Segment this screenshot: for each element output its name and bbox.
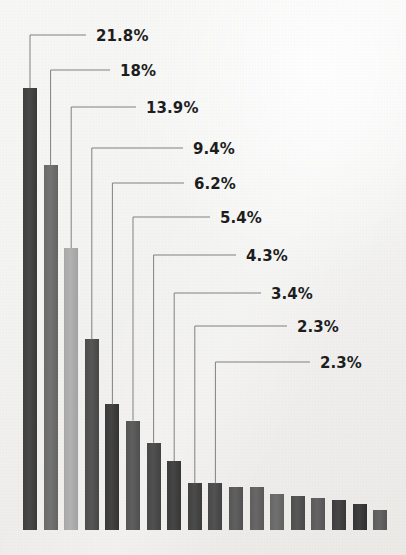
bar: [64, 248, 78, 530]
bar: [208, 483, 222, 530]
data-label: 2.3%: [297, 318, 339, 336]
plot-area: [0, 0, 406, 555]
data-label: 3.4%: [271, 285, 313, 303]
bar: [250, 487, 264, 530]
bar: [353, 504, 367, 530]
bar: [105, 404, 119, 530]
data-label: 18%: [120, 62, 156, 80]
bar: [332, 500, 346, 530]
bar: [270, 494, 284, 530]
data-label: 5.4%: [220, 209, 262, 227]
data-label: 2.3%: [320, 354, 362, 372]
bar: [167, 461, 181, 530]
data-label: 6.2%: [194, 175, 236, 193]
data-label: 13.9%: [146, 99, 199, 117]
bar: [126, 421, 140, 530]
data-label: 21.8%: [96, 27, 149, 45]
bar: [44, 165, 58, 530]
bar: [23, 88, 37, 530]
bar: [229, 487, 243, 530]
bar: [85, 339, 99, 530]
bar: [291, 496, 305, 530]
data-label: 9.4%: [193, 140, 235, 158]
bar-chart-figure: 21.8%18%13.9%9.4%6.2%5.4%4.3%3.4%2.3%2.3…: [0, 0, 406, 555]
bar: [188, 483, 202, 530]
bar: [373, 510, 387, 530]
data-label: 4.3%: [246, 247, 288, 265]
bar: [311, 498, 325, 530]
bar: [147, 443, 161, 530]
